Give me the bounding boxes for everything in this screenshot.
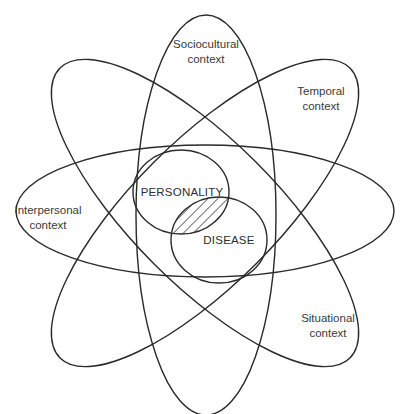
temporal-line2: context <box>285 99 357 114</box>
situational-line1: Situational <box>283 311 373 326</box>
temporal-line1: Temporal <box>285 84 357 99</box>
label-personality: PERSONALITY <box>134 185 230 200</box>
situational-line2: context <box>283 326 373 341</box>
interpersonal-line1: Interpersonal <box>10 203 86 218</box>
label-sociocultural: Sociocultural context <box>160 37 252 67</box>
label-interpersonal: Interpersonal context <box>10 203 86 233</box>
label-temporal: Temporal context <box>285 84 357 114</box>
interpersonal-line2: context <box>10 218 86 233</box>
sociocultural-line1: Sociocultural <box>160 37 252 52</box>
label-disease: DISEASE <box>193 233 265 248</box>
sociocultural-line2: context <box>160 52 252 67</box>
label-situational: Situational context <box>283 311 373 341</box>
